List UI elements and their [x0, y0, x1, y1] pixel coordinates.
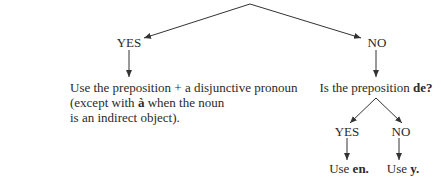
de-question: Is the preposition de? [319, 80, 432, 95]
arrow-root-to-yes [144, 4, 250, 38]
sub-no-label: NO [392, 124, 411, 139]
yes-label: YES [117, 35, 142, 50]
arrow-de-to-yes [350, 98, 376, 123]
arrow-de-to-no [376, 98, 402, 123]
yes-result-line-2: (except with à when the noun [70, 95, 298, 110]
use-y-result: Use y. [387, 161, 420, 176]
yes-result-line-3: is an indirect object). [70, 110, 298, 125]
arrow-root-to-no [250, 4, 361, 38]
use-en-result: Use en. [329, 161, 369, 176]
yes-result-line-1: Use the preposition + a disjunctive pron… [70, 80, 298, 95]
sub-yes-label: YES [335, 124, 360, 139]
no-label: NO [368, 35, 387, 50]
yes-result-text: Use the preposition + a disjunctive pron… [70, 80, 298, 125]
